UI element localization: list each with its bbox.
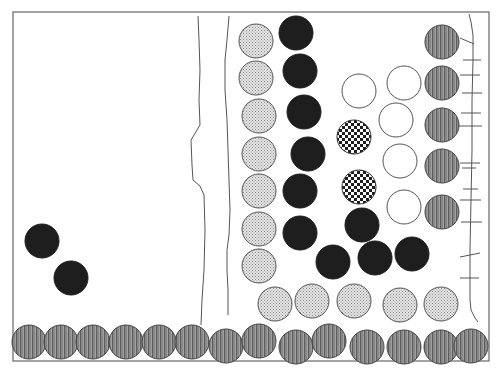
striped-marble[interactable] <box>12 325 46 359</box>
left-wall-line <box>191 16 205 325</box>
striped-marble[interactable] <box>454 329 488 363</box>
striped-marble[interactable] <box>425 149 459 183</box>
striped-marble[interactable] <box>312 324 346 358</box>
checkered-marble[interactable] <box>337 120 371 154</box>
black-marble[interactable] <box>287 95 321 129</box>
black-marble[interactable] <box>54 261 88 295</box>
striped-marble[interactable] <box>424 330 458 364</box>
dotted-marble[interactable] <box>242 137 276 171</box>
dotted-marble[interactable] <box>242 99 276 133</box>
black-marble[interactable] <box>283 54 317 88</box>
striped-marble[interactable] <box>425 25 459 59</box>
striped-marble[interactable] <box>44 325 78 359</box>
black-marble[interactable] <box>279 16 313 50</box>
striped-marble[interactable] <box>209 329 243 363</box>
striped-marble[interactable] <box>142 325 176 359</box>
dotted-marble[interactable] <box>424 287 458 321</box>
striped-marble[interactable] <box>279 330 313 364</box>
black-marble[interactable] <box>345 208 379 242</box>
checkered-marble[interactable] <box>342 170 376 204</box>
striped-marble[interactable] <box>350 330 384 364</box>
black-marble[interactable] <box>316 245 350 279</box>
striped-marble[interactable] <box>387 330 421 364</box>
striped-marble[interactable] <box>425 195 459 229</box>
pieces-layer <box>12 16 488 364</box>
empty-marble[interactable] <box>383 144 417 178</box>
striped-marble[interactable] <box>425 66 459 100</box>
empty-marble[interactable] <box>387 190 421 224</box>
striped-marble[interactable] <box>425 108 459 142</box>
empty-marble[interactable] <box>342 74 376 108</box>
black-marble[interactable] <box>283 216 317 250</box>
black-marble[interactable] <box>395 237 429 271</box>
empty-marble[interactable] <box>379 103 413 137</box>
striped-marble[interactable] <box>242 324 276 358</box>
black-marble[interactable] <box>358 241 392 275</box>
dotted-marble[interactable] <box>337 284 371 318</box>
dotted-marble[interactable] <box>242 249 276 283</box>
black-marble[interactable] <box>291 137 325 171</box>
dotted-marble[interactable] <box>242 174 276 208</box>
black-marble[interactable] <box>283 174 317 208</box>
dotted-marble[interactable] <box>258 287 292 321</box>
striped-marble[interactable] <box>175 325 209 359</box>
dotted-marble[interactable] <box>242 212 276 246</box>
dotted-marble[interactable] <box>239 61 273 95</box>
game-board <box>0 0 503 377</box>
striped-marble[interactable] <box>109 325 143 359</box>
striped-marble[interactable] <box>76 325 110 359</box>
black-marble[interactable] <box>25 224 59 258</box>
dotted-marble[interactable] <box>239 24 273 58</box>
dotted-marble[interactable] <box>295 284 329 318</box>
channel-wall-line <box>225 16 230 315</box>
empty-marble[interactable] <box>387 66 421 100</box>
dotted-marble[interactable] <box>383 288 417 322</box>
